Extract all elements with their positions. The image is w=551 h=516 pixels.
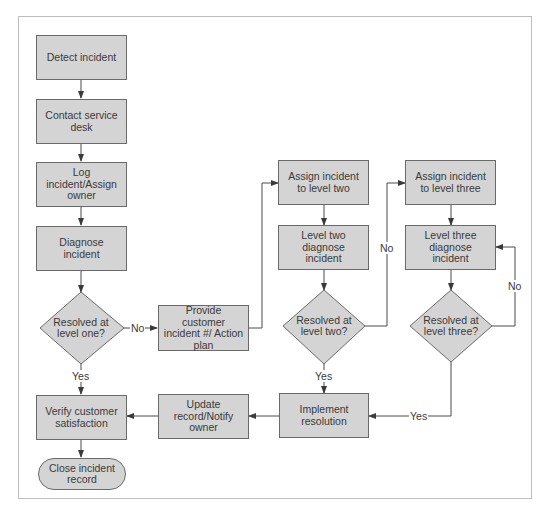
node-label: Provide customer incident #/ Action plan <box>163 305 244 351</box>
node-implement-resolution: Implement resolution <box>279 393 369 438</box>
node-provide-customer-incident: Provide customer incident #/ Action plan <box>158 305 249 351</box>
node-label: Level two diagnose incident <box>283 230 364 265</box>
node-log-incident: Log incident/Assign owner <box>36 162 127 207</box>
node-label: Verify customer satisfaction <box>41 406 122 429</box>
decision-level-three: Resolved at level three? <box>418 312 484 340</box>
edge-label-level-two-yes: Yes <box>314 370 333 382</box>
decision-label: Resolved at level three? <box>418 315 484 338</box>
edge-label-level-three-no: No <box>507 280 522 292</box>
node-verify-satisfaction: Verify customer satisfaction <box>36 395 127 440</box>
node-label: Level three diagnose incident <box>410 230 491 265</box>
node-diagnose-incident: Diagnose incident <box>36 226 127 271</box>
node-level-three-diagnose: Level three diagnose incident <box>405 225 496 270</box>
node-label: Log incident/Assign owner <box>41 167 122 202</box>
edge-label-level-three-yes: Yes <box>409 410 428 422</box>
node-label: Implement resolution <box>284 404 364 427</box>
edge-label-level-one-no: No <box>130 322 145 334</box>
node-label: Assign incident to level two <box>283 171 364 194</box>
node-close-incident-record: Close incident record <box>38 458 126 490</box>
node-assign-level-two: Assign incident to level two <box>278 160 369 205</box>
node-label: Detect incident <box>47 52 116 64</box>
node-contact-service-desk: Contact service desk <box>36 99 127 144</box>
incident-flowchart: Detect incident Contact service desk Log… <box>0 0 551 516</box>
node-label: Assign incident to level three <box>410 171 491 194</box>
decision-label: Resolved at level one? <box>50 317 112 340</box>
node-label: Close incident record <box>43 463 121 486</box>
node-assign-level-three: Assign incident to level three <box>405 160 496 205</box>
edge-label-level-one-yes: Yes <box>71 370 90 382</box>
node-level-two-diagnose: Level two diagnose incident <box>278 225 369 270</box>
node-detect-incident: Detect incident <box>36 35 127 80</box>
decision-level-two: Resolved at level two? <box>293 312 355 340</box>
decision-label: Resolved at level two? <box>293 315 355 338</box>
node-label: Update record/Notify owner <box>163 399 244 434</box>
edge-label-level-two-no: No <box>379 242 394 254</box>
decision-level-one: Resolved at level one? <box>50 314 112 342</box>
node-label: Diagnose incident <box>41 237 122 260</box>
node-update-record: Update record/Notify owner <box>158 394 249 439</box>
node-label: Contact service desk <box>41 110 122 133</box>
